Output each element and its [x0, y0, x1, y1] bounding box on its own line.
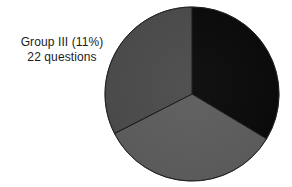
group-iii-annotation: Group III (11%) 22 questions: [8, 35, 116, 65]
pie-chart-graphic: [0, 0, 292, 187]
annotation-line-primary: Group III (11%): [8, 35, 116, 50]
pie-chart-figure: Group III (11%) 22 questions: [0, 0, 292, 187]
annotation-line-secondary: 22 questions: [8, 50, 116, 65]
